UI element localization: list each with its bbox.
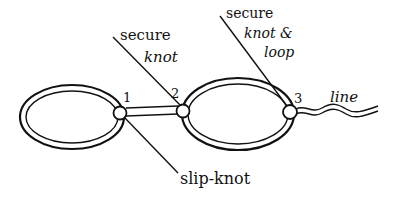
secure-knot-label-line1: secure: [120, 26, 171, 44]
knot-2-label: 2: [171, 86, 179, 101]
wavy-line: [296, 104, 378, 117]
knot-1-label: 1: [123, 90, 131, 105]
knot-3-label: 3: [294, 91, 302, 106]
slip-knot-label: slip-knot: [180, 169, 251, 188]
line-label: line: [330, 88, 358, 106]
right-loop: [182, 78, 294, 150]
secure-knot-loop-label-line3: loop: [264, 44, 294, 60]
secure-knot-loop-label-line1: secure: [226, 5, 273, 21]
connecting-rope: [126, 106, 178, 116]
left-loop: [20, 85, 124, 149]
slip-knot-leader: [124, 117, 178, 173]
knot-3: [283, 105, 297, 119]
secure-knot-loop-label-line2: knot &: [244, 25, 292, 41]
secure-knot-label-line2: knot: [144, 48, 179, 66]
knot-2: [177, 105, 190, 118]
knot-diagram: 1 2 3 secure knot secure knot & loop lin…: [0, 0, 396, 199]
knot-1: [114, 107, 127, 120]
